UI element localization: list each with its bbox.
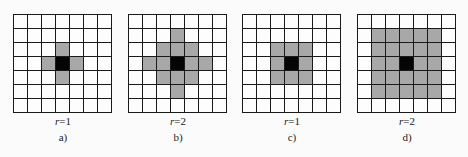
grid-cell	[313, 29, 327, 43]
neighbor-cell	[428, 85, 442, 99]
neighbor-cell	[372, 71, 386, 85]
grid-cell	[98, 85, 112, 99]
grid-cell	[442, 99, 456, 113]
grid-cell	[28, 71, 42, 85]
grid-cell	[14, 57, 28, 71]
grid-cell	[70, 71, 84, 85]
grid-cell	[70, 99, 84, 113]
neighbor-cell	[271, 71, 285, 85]
neighbor-cell	[428, 29, 442, 43]
grid-cell	[129, 29, 143, 43]
grid-cell	[84, 85, 98, 99]
neighbor-cell	[428, 71, 442, 85]
radius-value: =1	[59, 115, 71, 127]
grid-cell	[185, 29, 199, 43]
neighbor-cell	[299, 57, 313, 71]
grid-cell	[28, 15, 42, 29]
grid-cell	[414, 15, 428, 29]
grid-cell	[442, 15, 456, 29]
neighbor-cell	[386, 29, 400, 43]
radius-label-d: r=2	[357, 115, 457, 127]
grid-cell	[56, 29, 70, 43]
grid-cell	[257, 71, 271, 85]
neighbor-cell	[185, 57, 199, 71]
grid-cell	[285, 15, 299, 29]
grid-cell	[327, 99, 341, 113]
panel-b: r=2 b)	[128, 0, 242, 157]
neighbor-cell	[285, 71, 299, 85]
grid-cell	[299, 29, 313, 43]
grid-cell	[84, 57, 98, 71]
grid-cell	[185, 15, 199, 29]
grid-cell	[199, 29, 213, 43]
grid-cell	[400, 15, 414, 29]
grid-cell	[28, 57, 42, 71]
grid-cell	[372, 99, 386, 113]
neighbor-cell	[372, 85, 386, 99]
grid-cell	[327, 15, 341, 29]
neighbor-cell	[185, 71, 199, 85]
grid-cell	[70, 29, 84, 43]
grid-cell	[400, 99, 414, 113]
grid-cell	[243, 85, 257, 99]
grid-cell	[56, 99, 70, 113]
grid-cell	[143, 15, 157, 29]
grid-cell	[299, 15, 313, 29]
neighbor-cell	[400, 71, 414, 85]
grid-cell	[313, 15, 327, 29]
grid-cell	[28, 99, 42, 113]
grid-cell	[56, 85, 70, 99]
grid-b	[128, 14, 227, 113]
grid-cell	[143, 43, 157, 57]
grid-cell	[271, 99, 285, 113]
grid-cell	[358, 99, 372, 113]
grid-cell	[98, 15, 112, 29]
neighbor-cell	[386, 57, 400, 71]
grid-cell	[285, 29, 299, 43]
grid-cell	[327, 57, 341, 71]
grid-cell	[171, 15, 185, 29]
grid-cell	[129, 43, 143, 57]
panel-d: r=2 d)	[357, 0, 468, 157]
grid-cell	[313, 85, 327, 99]
grid-cell	[129, 71, 143, 85]
caption-c: c)	[242, 131, 342, 143]
neighbor-cell	[386, 71, 400, 85]
grid-cell	[42, 85, 56, 99]
grid-cell	[271, 15, 285, 29]
grid-cell	[327, 43, 341, 57]
grid-cell	[84, 71, 98, 85]
grid-cell	[213, 15, 227, 29]
grid-cell	[257, 43, 271, 57]
grid-cell	[129, 57, 143, 71]
grid-cell	[257, 85, 271, 99]
grid-cell	[213, 57, 227, 71]
neighbor-cell	[271, 43, 285, 57]
neighbor-cell	[171, 43, 185, 57]
grid-cell	[199, 99, 213, 113]
grid-cell	[157, 99, 171, 113]
grid-cell	[199, 71, 213, 85]
grid-cell	[42, 29, 56, 43]
neighbor-cell	[400, 29, 414, 43]
grid-cell	[70, 85, 84, 99]
grid-cell	[42, 43, 56, 57]
grid-cell	[327, 85, 341, 99]
grid-cell	[199, 43, 213, 57]
grid-cell	[243, 15, 257, 29]
neighbor-cell	[414, 43, 428, 57]
grid-cell	[157, 15, 171, 29]
grid-d	[357, 14, 456, 113]
neighbor-cell	[428, 57, 442, 71]
grid-cell	[129, 15, 143, 29]
grid-cell	[84, 15, 98, 29]
grid-cell	[243, 57, 257, 71]
radius-value: =2	[174, 115, 186, 127]
center-cell	[56, 57, 70, 71]
grid-cell	[285, 99, 299, 113]
neighbor-cell	[386, 43, 400, 57]
grid-a	[13, 14, 112, 113]
grid-cell	[358, 29, 372, 43]
grid-cell	[442, 85, 456, 99]
grid-cell	[98, 43, 112, 57]
